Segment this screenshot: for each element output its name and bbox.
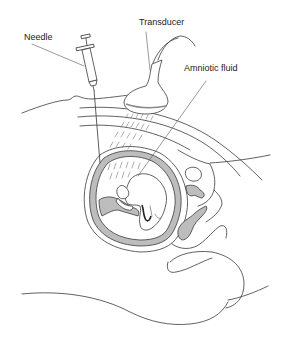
amniotic-fluid-label: Amniotic fluid [184, 64, 238, 73]
pelvic-organ-1 [186, 185, 204, 198]
bladder [185, 167, 201, 181]
transducer [124, 36, 195, 114]
thigh-outline [22, 293, 228, 325]
diagram-artwork [0, 0, 290, 343]
transducer-cable-2 [153, 38, 178, 63]
needle-leader-line [32, 44, 84, 66]
rectum [178, 206, 207, 240]
maternal-body-outline [22, 95, 130, 113]
inner-thigh-outline [167, 258, 212, 272]
transducer-label: Transducer [139, 18, 184, 27]
fetus-body [125, 174, 166, 230]
transducer-cable [158, 36, 195, 60]
amniocentesis-diagram: Needle Transducer Amniotic fluid [0, 0, 290, 343]
transducer-leader-line [146, 32, 150, 70]
needle-shaft [94, 90, 100, 163]
syringe-barrel [82, 48, 97, 82]
pelvic-contour-2 [206, 190, 222, 222]
needle-label: Needle [24, 33, 53, 42]
leg-outline [228, 286, 268, 300]
